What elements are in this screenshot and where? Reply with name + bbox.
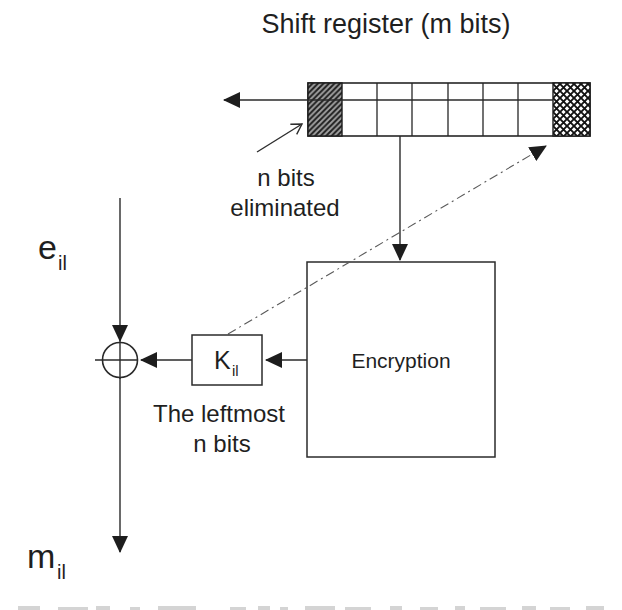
shift-register-body [308, 83, 590, 136]
n-bits-eliminated-label-line1: n bits [257, 164, 314, 191]
cropped-caption-fragment [18, 606, 604, 610]
n-bits-eliminated-label-line2: eliminated [230, 194, 339, 221]
ciphertext-input-label: e [38, 228, 57, 266]
diagram-title: Shift register (m bits) [261, 9, 510, 39]
leftmost-bits-label-line1: The leftmost [153, 400, 285, 427]
eliminated-bits-pointer-arrow [257, 124, 302, 152]
key-box-label: K [214, 346, 231, 374]
shift-register [308, 83, 590, 136]
shift-register-left-hatched-cell [308, 83, 342, 136]
encryption-box-label: Encryption [351, 349, 450, 372]
shift-register-right-crosshatched-cell [553, 83, 590, 136]
shift-register-encryption-diagram: Shift register (m bits) n bits eliminate… [0, 0, 622, 610]
ciphertext-input-label-subscript: il [58, 252, 67, 274]
leftmost-bits-label-line2: n bits [193, 430, 250, 457]
diagram-canvas: Shift register (m bits) n bits eliminate… [0, 0, 622, 610]
key-box-label-subscript: il [232, 362, 239, 379]
plaintext-output-label: m [27, 537, 55, 575]
plaintext-output-label-subscript: il [57, 561, 66, 583]
xor-node [95, 341, 138, 379]
